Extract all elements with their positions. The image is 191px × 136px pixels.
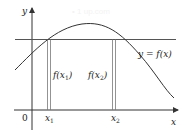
x-axis-label: x — [171, 117, 176, 127]
watermark-text: • 1 up.com — [72, 7, 110, 16]
origin-label: 0 — [22, 113, 28, 123]
bar-x1 — [48, 40, 51, 111]
x1-label: x1 — [45, 113, 54, 124]
diagram-canvas: • 1 up.com y x 0 y = f(x) x1 x2 f(x1) f(… — [0, 0, 191, 136]
fx2-label: f(x2) — [87, 70, 108, 81]
bar-x2 — [113, 40, 116, 111]
function-curve — [15, 24, 174, 98]
curve-label: y = f(x) — [137, 49, 172, 59]
x2-label: x2 — [111, 113, 120, 124]
y-axis-label: y — [21, 6, 28, 16]
fx1-label: f(x1) — [52, 70, 73, 81]
